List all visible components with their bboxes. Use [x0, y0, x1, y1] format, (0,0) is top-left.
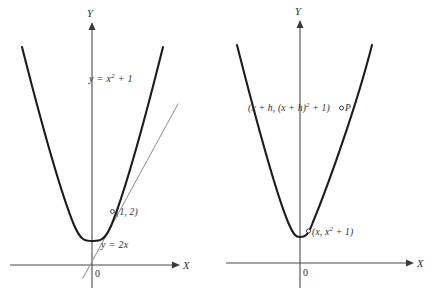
figure-parabola-tangent: X Y 0 y = x2 + 1 (1, 2) y = 2x — [0, 0, 220, 292]
point-p-coordinate-label: (x + h, (x + h)2 + 1) — [248, 101, 330, 114]
curve-equation-lead: y = x — [88, 73, 111, 84]
point-lower-coordinate-label: (x, x2 + 1) — [312, 225, 353, 238]
point-lower-marker — [307, 229, 311, 233]
curve-equation-tail: + 1 — [115, 73, 133, 84]
curve-equation-label: y = x2 + 1 — [88, 72, 133, 84]
x-axis-arrowhead — [172, 262, 180, 269]
x-axis-label: X — [182, 260, 190, 271]
point-p-name: P — [344, 103, 351, 113]
tangent-point-marker — [111, 210, 115, 214]
point-p-coordinate-lead: (x + h, (x + h) — [248, 102, 306, 114]
parabola-curve — [237, 45, 372, 237]
y-axis-arrowhead — [297, 20, 304, 28]
origin-label: 0 — [95, 268, 100, 279]
figure-parabola-secant-points: X Y 0 P (x + h, (x + h)2 + 1) (x, x2 + 1… — [220, 0, 441, 292]
tangent-point-label: (1, 2) — [116, 206, 138, 218]
tangent-equation-label: y = 2x — [100, 239, 129, 250]
y-axis-label: Y — [295, 6, 302, 17]
point-lower-coordinate-lead: (x, x — [312, 226, 330, 238]
figure-page: X Y 0 y = x2 + 1 (1, 2) y = 2x X Y 0 — [0, 0, 441, 292]
point-p-marker — [340, 106, 344, 110]
y-axis-label: Y — [87, 8, 94, 19]
x-axis-label: X — [416, 258, 424, 269]
y-axis-arrowhead — [89, 22, 96, 30]
point-lower-coordinate-tail: + 1) — [333, 226, 353, 238]
x-axis-arrowhead — [406, 260, 414, 267]
tangent-line — [83, 104, 178, 278]
origin-label: 0 — [303, 267, 308, 278]
point-p-coordinate-tail: + 1) — [310, 102, 330, 114]
